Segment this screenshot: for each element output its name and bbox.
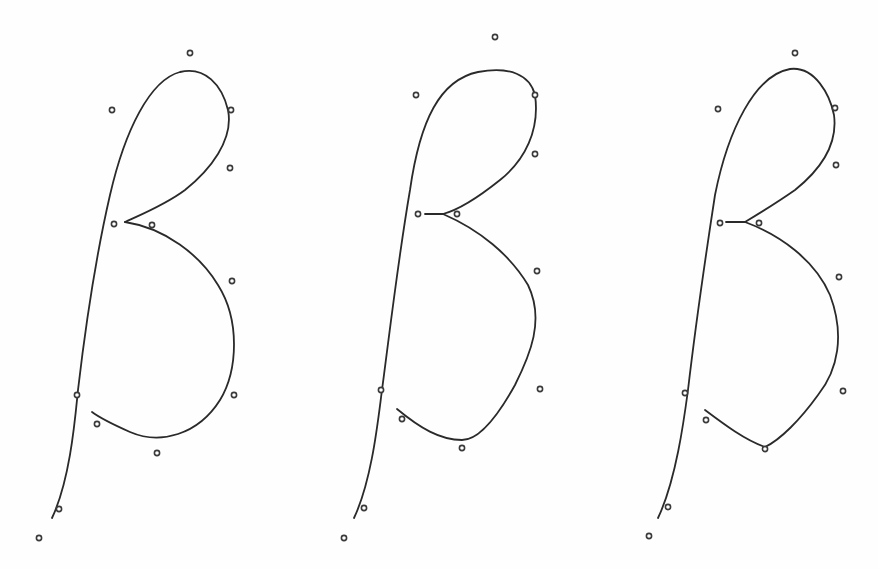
- control-point-marker: [229, 278, 234, 283]
- control-point-marker: [646, 533, 651, 538]
- control-point-marker: [792, 50, 797, 55]
- beta-bowl-curve: [705, 222, 838, 447]
- control-point-marker: [832, 105, 837, 110]
- control-point-marker: [836, 274, 841, 279]
- beta-spline-diagram: [0, 0, 878, 569]
- control-point-marker: [361, 505, 366, 510]
- control-point-marker: [36, 535, 41, 540]
- control-point-marker: [149, 222, 154, 227]
- beta-stem-curve: [658, 69, 835, 518]
- control-point-marker: [665, 504, 670, 509]
- control-point-marker: [154, 450, 159, 455]
- control-point-marker: [534, 268, 539, 273]
- beta-figure-corner: [646, 50, 845, 538]
- control-point-marker: [840, 388, 845, 393]
- beta-bowl-curve: [92, 222, 234, 437]
- control-point-marker: [228, 107, 233, 112]
- control-points: [36, 50, 236, 540]
- control-point-marker: [532, 92, 537, 97]
- control-point-marker: [833, 162, 838, 167]
- control-point-marker: [756, 220, 761, 225]
- control-point-marker: [111, 221, 116, 226]
- control-point-marker: [532, 151, 537, 156]
- control-point-marker: [415, 211, 420, 216]
- beta-figure-smooth: [36, 50, 236, 540]
- control-point-marker: [703, 417, 708, 422]
- control-point-marker: [227, 165, 232, 170]
- control-point-marker: [715, 106, 720, 111]
- beta-bowl-curve: [397, 214, 536, 440]
- control-point-marker: [94, 421, 99, 426]
- control-point-marker: [454, 211, 459, 216]
- control-point-marker: [762, 446, 767, 451]
- control-point-marker: [399, 416, 404, 421]
- diagram-canvas: [0, 0, 878, 569]
- control-point-marker: [231, 392, 236, 397]
- control-points: [341, 34, 542, 540]
- control-point-marker: [413, 92, 418, 97]
- beta-stem-curve: [52, 71, 229, 518]
- control-point-marker: [459, 445, 464, 450]
- control-point-marker: [537, 386, 542, 391]
- control-point-marker: [341, 535, 346, 540]
- control-points: [646, 50, 845, 538]
- control-point-marker: [109, 107, 114, 112]
- control-point-marker: [56, 506, 61, 511]
- control-point-marker: [74, 392, 79, 397]
- control-point-marker: [717, 220, 722, 225]
- control-point-marker: [378, 387, 383, 392]
- control-point-marker: [682, 390, 687, 395]
- beta-figure-straight-segment: [341, 34, 542, 540]
- beta-stem-curve: [354, 70, 536, 518]
- control-point-marker: [187, 50, 192, 55]
- control-point-marker: [492, 34, 497, 39]
